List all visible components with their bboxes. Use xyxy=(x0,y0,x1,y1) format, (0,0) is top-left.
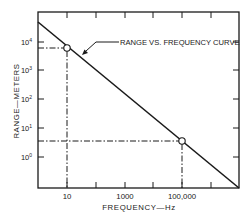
x-tick-labels: 10 1000 100,000 xyxy=(63,192,197,201)
svg-text:101: 101 xyxy=(21,123,32,134)
annotation-label: RANGE VS. FREQUENCY CURVE xyxy=(120,38,240,47)
svg-text:100: 100 xyxy=(21,152,32,163)
right-ticks xyxy=(233,42,239,157)
range-vs-frequency-chart: RANGE VS. FREQUENCY CURVE 104 103 102 10… xyxy=(0,0,252,217)
svg-text:100,000: 100,000 xyxy=(168,192,197,201)
svg-text:102: 102 xyxy=(21,94,32,105)
svg-text:104: 104 xyxy=(21,37,32,48)
annotation-leader xyxy=(82,42,119,55)
svg-text:1000: 1000 xyxy=(116,192,134,201)
top-ticks xyxy=(67,12,211,18)
svg-text:103: 103 xyxy=(21,65,32,76)
x-axis-label: FREQUENCY—Hz xyxy=(102,203,175,212)
y-axis-label: RANGE—METERS xyxy=(12,63,21,138)
reference-lines xyxy=(38,48,182,188)
data-point-100khz xyxy=(179,138,185,144)
left-ticks xyxy=(38,42,44,157)
data-point-10hz xyxy=(64,45,70,51)
svg-text:10: 10 xyxy=(63,192,72,201)
bottom-ticks xyxy=(67,182,211,188)
y-tick-labels: 104 103 102 101 100 xyxy=(21,37,32,163)
